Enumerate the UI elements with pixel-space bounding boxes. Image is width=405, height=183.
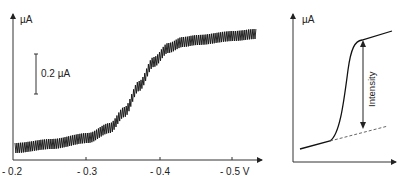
schematic-sigmoid-curve (300, 31, 392, 149)
x-tick-label: - 0.4 (150, 166, 170, 177)
x-tick-label: - 0.5 V (220, 166, 250, 177)
scale-bar-label: 0.2 µA (41, 68, 70, 79)
x-tick-label: - 0.2 (2, 166, 22, 177)
intensity-label: Intensity (366, 71, 377, 107)
right-y-axis-label: µA (302, 14, 315, 25)
x-tick-label: - 0.3 (77, 166, 97, 177)
intensity-arrowhead-top (360, 40, 366, 47)
baseline-extrapolation-dashed (330, 126, 388, 141)
scale-bar (34, 54, 38, 94)
figure: µA - 0.2 - 0.3 - 0.4 - 0.5 V 0.2 µA µA I (0, 0, 405, 183)
right-chart: µA Intensity (293, 14, 396, 162)
left-chart: µA - 0.2 - 0.3 - 0.4 - 0.5 V 0.2 µA (2, 14, 262, 177)
intensity-arrowhead-bottom (360, 122, 366, 129)
oscillating-current-trace (15, 29, 256, 153)
left-y-axis-label: µA (20, 14, 33, 25)
